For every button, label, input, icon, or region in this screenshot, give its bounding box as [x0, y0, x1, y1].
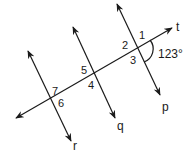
label-p: p	[162, 100, 169, 114]
angle-label-3: 3	[130, 54, 136, 66]
label-r: r	[73, 139, 77, 152]
angle-label-4: 4	[88, 79, 94, 91]
label-t: t	[176, 20, 180, 34]
diagram-canvas: t p q r 1 2 3 4 5 6 7 123°	[0, 0, 192, 152]
angle-measure-123: 123°	[158, 47, 183, 61]
angle-label-6: 6	[58, 97, 64, 109]
angle-label-7: 7	[52, 85, 58, 97]
line-q	[73, 27, 115, 118]
line-r	[28, 51, 71, 141]
angle-label-5: 5	[81, 64, 87, 76]
angle-label-1: 1	[139, 29, 145, 41]
angle-label-2: 2	[122, 39, 128, 51]
label-q: q	[117, 119, 124, 133]
